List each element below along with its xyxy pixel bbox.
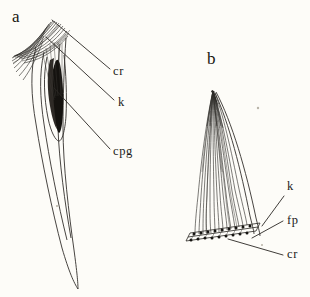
panel-a-shaft-right-edge — [63, 38, 78, 289]
leader-line-b-k — [262, 196, 284, 226]
paper-speck-3 — [261, 244, 263, 246]
callout-label-b-fp: fp — [287, 213, 299, 227]
panel-a-drawing — [12, 21, 78, 289]
callout-label-b-cr: cr — [287, 247, 298, 261]
callout-label-a-k: k — [118, 95, 125, 109]
callout-label-b-k: k — [287, 179, 294, 193]
panel-b-drawing — [186, 90, 263, 246]
figure-plate: a cr k cpg b k fp cr — [0, 0, 310, 297]
paper-speck — [56, 205, 58, 207]
figure-canvas: a cr k cpg b k fp cr — [0, 0, 310, 297]
panel-label-a: a — [12, 7, 20, 26]
panel-b-fiber-bundle — [195, 91, 247, 234]
callout-label-a-cpg: cpg — [113, 144, 133, 158]
leader-line-b-cr — [228, 239, 283, 255]
leader-line-a-cr — [52, 20, 110, 69]
paper-speck-2 — [257, 107, 259, 109]
callout-label-a-cr: cr — [113, 64, 124, 78]
panel-label-b: b — [207, 49, 216, 68]
